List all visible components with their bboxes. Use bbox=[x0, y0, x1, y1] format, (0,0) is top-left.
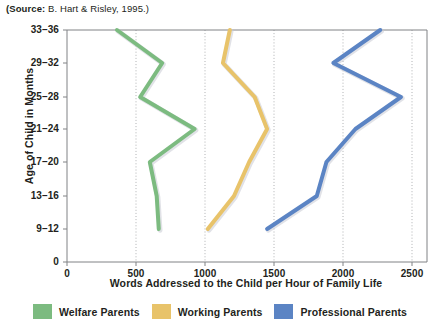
line-chart-svg bbox=[0, 0, 440, 300]
y-tick-label-13-16: 13–16 bbox=[7, 190, 59, 201]
y-tick-label-21-24: 21–24 bbox=[7, 123, 59, 134]
x-tick-label-1000: 1000 bbox=[175, 268, 235, 279]
series-shadow-working-parents bbox=[209, 31, 268, 230]
series-line-professional-parents bbox=[267, 30, 401, 229]
legend-swatch-icon-0 bbox=[33, 304, 52, 319]
legend-label: Working Parents bbox=[178, 306, 263, 318]
x-tick-label-2500: 2500 bbox=[382, 268, 440, 279]
x-tick-label-2000: 2000 bbox=[313, 268, 373, 279]
series-line-working-parents bbox=[208, 30, 267, 229]
chart-plot-area: Age of Child in Months Words Addressed t… bbox=[0, 0, 440, 300]
y-tick-label-29-32: 29–32 bbox=[7, 57, 59, 68]
y-tick-label-0: 0 bbox=[7, 256, 59, 267]
y-tick-label-17-20: 17–20 bbox=[7, 156, 59, 167]
legend-item-welfare-parents[interactable]: Welfare Parents bbox=[33, 304, 140, 319]
x-tick-label-0: 0 bbox=[37, 268, 97, 279]
legend-swatch-icon-2 bbox=[274, 304, 293, 319]
legend-label: Professional Parents bbox=[300, 306, 406, 318]
legend-label: Welfare Parents bbox=[59, 306, 140, 318]
legend-item-professional-parents[interactable]: Professional Parents bbox=[274, 304, 406, 319]
legend-item-working-parents[interactable]: Working Parents bbox=[152, 304, 263, 319]
legend-swatch-icon-1 bbox=[152, 304, 171, 319]
series-line-welfare-parents bbox=[117, 30, 195, 229]
x-tick-label-1500: 1500 bbox=[244, 268, 304, 279]
y-tick-label-9-12: 9–12 bbox=[7, 223, 59, 234]
x-tick-label-500: 500 bbox=[106, 268, 166, 279]
chart-legend: Welfare ParentsWorking ParentsProfession… bbox=[0, 300, 440, 323]
y-tick-label-25-28: 25–28 bbox=[7, 91, 59, 102]
y-tick-label-33-36: 33–36 bbox=[7, 24, 59, 35]
